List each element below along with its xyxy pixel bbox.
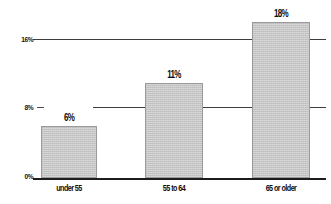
bar-chart: 16% 8% 0% 6% 11% 18% under 55 55 to 64 6… — [0, 0, 331, 204]
y-tick-label-16: 16% — [6, 35, 33, 44]
plot-area: 16% 8% 0% 6% 11% 18% under 55 55 to 64 6… — [0, 0, 331, 204]
category-label-55-to-64: 55 to 64 — [142, 183, 206, 193]
bar-under-55[interactable] — [41, 126, 97, 178]
y-tick-label-0: 0% — [6, 172, 33, 181]
bar-value-55-to-64: 11% — [150, 69, 198, 80]
bar-value-65-or-older: 18% — [257, 8, 305, 19]
category-label-under-55: under 55 — [37, 183, 101, 193]
y-tick-label-8: 8% — [6, 103, 33, 112]
category-label-65-or-older: 65 or older — [249, 183, 313, 193]
axis-tick-8 — [37, 107, 44, 108]
bar-55-to-64[interactable] — [145, 83, 203, 178]
bar-value-under-55: 6% — [45, 112, 93, 123]
x-axis-line — [33, 178, 326, 180]
bar-65-or-older[interactable] — [252, 22, 310, 178]
